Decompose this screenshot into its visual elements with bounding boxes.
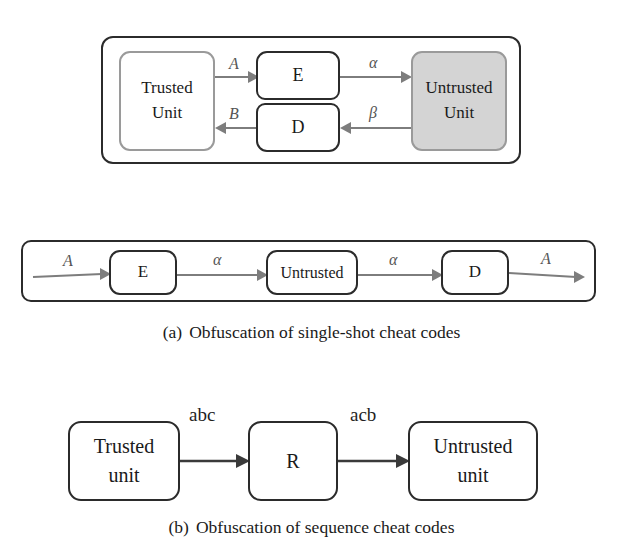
single-shot-chain-panel: E Untrusted D A α α A: [21, 240, 596, 302]
node-b-randomizer: R: [248, 421, 338, 501]
figure-page: { "figure": { "subfigures": [ { "tag": "…: [0, 0, 623, 556]
edge-label-beta-return: β: [369, 104, 377, 122]
node-decrypt-label: D: [292, 114, 305, 140]
arrow-chain-e-to-untrusted: [177, 250, 268, 295]
edge-label-chain-alpha-1: α: [213, 251, 221, 269]
arrow-b-r-to-untrusted: [338, 421, 410, 501]
edge-label-alpha-forward: α: [369, 54, 377, 72]
node-decrypt: D: [256, 103, 340, 152]
node-b-untrusted-unit: Untrusted unit: [408, 421, 538, 501]
edge-label-A-forward: A: [229, 55, 239, 73]
node-b-trusted-unit-line-2: unit: [108, 461, 139, 490]
edge-label-chain-alpha-2: α: [389, 251, 397, 269]
caption-b-tag: (b): [169, 517, 189, 537]
node-chain-encrypt-label: E: [138, 260, 148, 285]
node-untrusted-unit-line-2: Unit: [444, 101, 474, 126]
edge-label-b-abc: abc: [189, 404, 215, 426]
edge-label-B-return: B: [229, 105, 239, 123]
node-chain-untrusted: Untrusted: [266, 250, 358, 295]
arrow-chain-untrusted-to-d: [358, 250, 443, 295]
caption-subfigure-a: (a)Obfuscation of single-shot cheat code…: [0, 322, 623, 343]
edge-label-chain-in-A: A: [63, 252, 73, 270]
edge-label-b-acb: acb: [350, 404, 376, 426]
node-chain-decrypt: D: [441, 250, 509, 295]
node-encrypt-label: E: [293, 62, 304, 88]
node-chain-encrypt: E: [109, 250, 177, 295]
node-untrusted-unit: Untrusted Unit: [411, 51, 507, 151]
node-chain-decrypt-label: D: [469, 260, 481, 285]
edge-label-chain-out-A: A: [541, 250, 551, 268]
node-b-trusted-unit-line-1: Trusted: [94, 432, 154, 461]
node-trusted-unit-line-1: Trusted: [141, 76, 192, 101]
caption-subfigure-b: (b)Obfuscation of sequence cheat codes: [0, 517, 623, 538]
node-trusted-unit: Trusted Unit: [119, 51, 215, 151]
caption-a-tag: (a): [163, 322, 182, 342]
node-b-untrusted-unit-line-2: unit: [457, 461, 488, 490]
arrow-b-trusted-to-r: [180, 421, 250, 501]
caption-b-text: Obfuscation of sequence cheat codes: [196, 517, 455, 537]
node-encrypt: E: [256, 51, 340, 100]
node-trusted-unit-line-2: Unit: [152, 101, 182, 126]
node-untrusted-unit-line-1: Untrusted: [425, 76, 492, 101]
node-b-untrusted-unit-line-1: Untrusted: [434, 432, 513, 461]
caption-a-text: Obfuscation of single-shot cheat codes: [189, 322, 460, 342]
node-chain-untrusted-label: Untrusted: [280, 261, 343, 284]
two-way-obfuscation-panel: Trusted Unit E D Untrusted Unit A α β B: [101, 36, 521, 164]
node-b-randomizer-label: R: [286, 447, 299, 476]
node-b-trusted-unit: Trusted unit: [68, 421, 180, 501]
